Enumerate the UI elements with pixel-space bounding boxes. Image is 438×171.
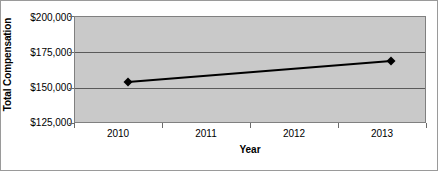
y-tick-label-125000: $125,000 [18,118,72,128]
x-tick-label-2010: 2010 [74,128,162,140]
x-tick-label-2013: 2013 [338,128,426,140]
plot-area [74,16,426,123]
y-tick-label-175000: $175,000 [18,48,72,58]
line-chart: Total Compensation $200,000 $175,000 $15… [0,0,438,171]
y-axis-title: Total Compensation [1,1,15,127]
y-axis-title-label: Total Compensation [3,17,14,111]
x-tick-label-2012: 2012 [250,128,338,140]
x-tick-mark-end [426,123,427,128]
gridline-150000 [75,88,425,89]
y-tick-label-150000: $150,000 [18,83,72,93]
gridline-175000 [75,52,425,53]
x-axis-title: Year [74,144,426,155]
y-tick-label-200000: $200,000 [18,13,72,23]
x-tick-label-2011: 2011 [162,128,250,140]
y-axis-tick-labels: $200,000 $175,000 $150,000 $125,000 [15,1,72,131]
